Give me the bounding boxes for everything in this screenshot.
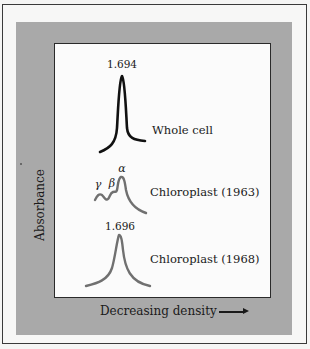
beta-label: β [109, 177, 115, 190]
chloroplast-1963-label: Chloroplast (1963) [150, 185, 260, 199]
whole-cell-peak-label: 1.694 [107, 58, 137, 70]
alpha-label: α [118, 162, 125, 175]
chloroplast-1963-curve [95, 177, 146, 213]
chloroplast-1968-peak-label: 1.696 [105, 220, 135, 232]
gamma-label: γ [95, 178, 102, 191]
whole-cell-curve [100, 76, 145, 152]
chloroplast-1968-curve [86, 235, 150, 286]
whole-cell-label: Whole cell [152, 123, 213, 137]
chloroplast-1968-label: Chloroplast (1968) [150, 252, 260, 266]
curves [0, 0, 310, 349]
